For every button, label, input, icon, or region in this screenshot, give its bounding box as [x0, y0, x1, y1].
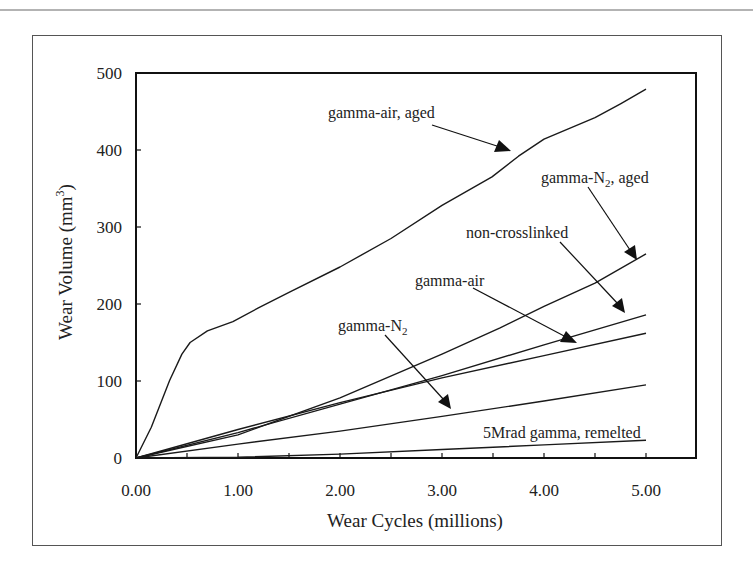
y-tick-label: 0 [114, 449, 123, 468]
x-tick-label: 1.00 [223, 481, 253, 500]
y-tick-label: 300 [97, 218, 123, 237]
y-tick-label: 100 [97, 372, 123, 391]
annotation-5mrad-remelted: 5Mrad gamma, remelted [483, 424, 641, 442]
x-tick-label: 2.00 [325, 481, 355, 500]
annotation-non-crosslinked: non-crosslinked [466, 224, 568, 241]
x-tick-label: 3.00 [427, 481, 457, 500]
annotation-gamma-air: gamma-air [415, 272, 485, 290]
x-tick-label: 4.00 [529, 481, 559, 500]
y-tick-label: 400 [97, 141, 123, 160]
x-tick-label: 5.00 [631, 481, 661, 500]
y-axis-title: Wear Volume (mm3) [53, 184, 77, 340]
x-axis-title: Wear Cycles (millions) [327, 510, 503, 532]
y-tick-label: 200 [97, 295, 123, 314]
annotation-gamma-air-aged: gamma-air, aged [328, 104, 435, 122]
y-tick-label: 500 [97, 64, 123, 83]
x-tick-label: 0.00 [121, 481, 151, 500]
wear-chart: 0100200300400500 0.001.002.003.004.005.0… [0, 0, 753, 569]
